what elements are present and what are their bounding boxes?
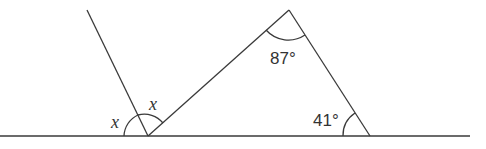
label-x-right: x (149, 95, 157, 113)
arc-apex (266, 30, 305, 40)
label-apex-angle: 87° (270, 50, 296, 67)
triangle-left-side (148, 10, 289, 136)
arc-x-left (124, 115, 138, 136)
label-x-left: x (111, 113, 119, 131)
diagram-lines (0, 0, 486, 149)
geometry-diagram: x x 87° 41° (0, 0, 486, 149)
arc-base (343, 113, 355, 136)
label-base-angle: 41° (313, 112, 339, 129)
